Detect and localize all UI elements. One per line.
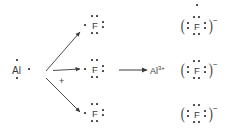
electron-dot-fion-bot-left-2 (187, 115, 189, 117)
aluminum-lewis-structure: Al (10, 58, 50, 84)
electron-dot-f-mid-top-1 (91, 59, 93, 61)
fluoride-ion-top: ( ) − F (180, 13, 226, 41)
electron-dot-fion-bot-top-2 (198, 104, 200, 106)
stray-ink-speck (196, 4, 198, 6)
open-paren-top: ( (181, 17, 185, 34)
electron-dot-fion-mid-top-2 (198, 60, 200, 62)
electron-dot-fion-mid-top-1 (193, 60, 195, 62)
aluminum-symbol: Al (12, 66, 21, 76)
aluminum-cation: Al3+ (150, 62, 176, 78)
electron-dot-fion-mid-left-2 (187, 71, 189, 73)
electron-dot-al-bottom (16, 77, 18, 79)
electron-dot-f-bot-right-1 (102, 109, 104, 111)
plus-sign: + (59, 77, 64, 86)
electron-dot-f-top-right-2 (102, 26, 104, 28)
electron-dot-fion-mid-bottom-2 (198, 77, 200, 79)
charge-label-bottom: − (213, 105, 218, 113)
fluorine-symbol-top: F (92, 21, 98, 31)
electron-dot-fion-mid-bottom-1 (193, 77, 195, 79)
fluoride-ion-bottom: ( ) − F (180, 101, 226, 129)
electron-dot-fion-top-left-1 (187, 22, 189, 24)
electron-dot-fion-bot-bottom-1 (193, 121, 195, 123)
lewis-dot-reaction-diagram: Al + F F F (0, 0, 227, 140)
electron-dot-al-right (28, 68, 30, 70)
fluoride-symbol-top: F (194, 22, 200, 32)
open-paren-bottom: ( (181, 105, 185, 122)
electron-dot-f-top-bottom-2 (96, 32, 98, 34)
electron-dot-f-mid-top-2 (96, 59, 98, 61)
electron-dot-fion-top-right-2 (204, 27, 206, 29)
fluorine-lewis-structure-bottom: F (82, 101, 112, 127)
fluoride-symbol-middle: F (194, 66, 200, 76)
electron-dot-fion-top-bottom-1 (193, 33, 195, 35)
electron-dot-f-top-top-2 (96, 15, 98, 17)
fluorine-symbol-middle: F (92, 65, 98, 75)
electron-dot-fion-bot-right-2 (204, 115, 206, 117)
electron-dot-fion-top-top-1 (193, 16, 195, 18)
electron-dot-fion-mid-left-1 (187, 66, 189, 68)
electron-dot-f-bot-right-2 (102, 114, 104, 116)
electron-dot-f-top-top-1 (91, 15, 93, 17)
electron-dot-fion-top-right-1 (204, 22, 206, 24)
electron-dot-fion-bot-right-1 (204, 110, 206, 112)
electron-dot-f-mid-bottom-2 (96, 76, 98, 78)
electron-dot-fion-mid-right-2 (204, 71, 206, 73)
arrow-al-to-fluorine-top (46, 32, 80, 71)
electron-dot-f-mid-right-2 (102, 70, 104, 72)
electron-dot-fion-mid-right-1 (204, 66, 206, 68)
electron-dot-f-mid-right-1 (102, 65, 104, 67)
fluoride-ion-middle: ( ) − F (180, 57, 226, 85)
electron-dot-f-bot-bottom-1 (91, 120, 93, 122)
electron-dot-f-mid-left (84, 68, 86, 70)
aluminum-cation-symbol: Al (150, 66, 158, 76)
electron-dot-fion-bot-left-1 (187, 110, 189, 112)
electron-dot-al-top (16, 59, 18, 61)
electron-dot-f-top-left (84, 24, 86, 26)
electron-dot-fion-top-bottom-2 (198, 33, 200, 35)
electron-dot-f-bot-bottom-2 (96, 120, 98, 122)
charge-label-top: − (213, 17, 218, 25)
electron-dot-f-bot-left (84, 112, 86, 114)
electron-dot-f-bot-top-1 (91, 103, 93, 105)
fluorine-lewis-structure-middle: F (82, 57, 112, 83)
open-paren-middle: ( (181, 61, 185, 78)
electron-dot-f-mid-bottom-1 (91, 76, 93, 78)
electron-dot-fion-top-left-2 (187, 27, 189, 29)
arrow-al-to-fluorine-middle (53, 69, 80, 71)
fluorine-lewis-structure-top: F (82, 13, 112, 39)
aluminum-cation-charge: 3+ (158, 65, 164, 71)
electron-dot-f-bot-top-2 (96, 103, 98, 105)
fluoride-symbol-bottom: F (194, 110, 200, 120)
electron-dot-fion-bot-top-1 (193, 104, 195, 106)
electron-dot-fion-top-top-2 (198, 16, 200, 18)
fluorine-symbol-bottom: F (92, 109, 98, 119)
electron-dot-f-top-right-1 (102, 21, 104, 23)
charge-label-middle: − (213, 61, 218, 69)
electron-dot-fion-bot-bottom-2 (198, 121, 200, 123)
electron-dot-f-top-bottom-1 (91, 32, 93, 34)
